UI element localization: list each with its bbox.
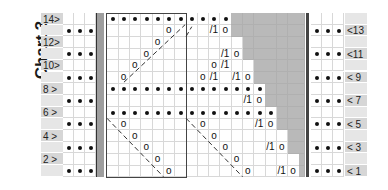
decrease-lines <box>0 0 388 190</box>
knitting-chart: Chart 3 14>12>10>8 >6 >4 >2 ><13<11< 9< … <box>0 0 388 190</box>
